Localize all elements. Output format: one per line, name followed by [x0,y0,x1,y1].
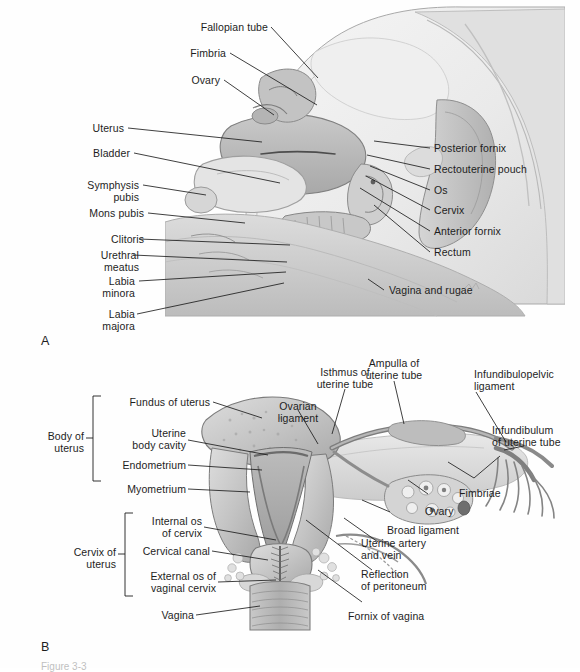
label-symphysis-pubis: Symphysis pubis [18,179,139,203]
label-endometrium: Endometrium [104,459,186,471]
bracket-label-body-of-uterus: Body of uterus [0,430,84,454]
label-external-os-of-vaginal-cervix: External os of vaginal cervix [130,570,216,594]
label-fornix-of-vagina: Fornix of vagina [348,610,424,622]
label-cervix-a: Cervix [434,204,464,216]
label-labia-minora: Labia minora [50,275,135,299]
label-infundibulopelvic-ligament: Infundibulopelvic ligament [474,368,578,392]
label-infundibulum-of-uterine-tube: Infundibulum of uterine tube [492,424,580,448]
label-cervical-canal: Cervical canal [136,545,210,557]
label-fundus-of-uterus: Fundus of uterus [104,396,210,408]
label-broad-ligament: Broad ligament [387,524,459,536]
label-anterior-fornix: Anterior fornix [434,225,501,237]
label-rectum: Rectum [434,246,471,258]
label-ovarian-ligament: Ovarian ligament [258,400,338,424]
label-labia-majora: Labia majora [50,308,135,332]
label-rectouterine-pouch: Rectouterine pouch [434,163,527,175]
label-os: Os [434,184,448,196]
label-bladder: Bladder [30,147,130,159]
label-internal-os-of-cervix: Internal os of cervix [136,515,202,539]
label-uterus-a: Uterus [30,122,124,134]
bracket-label-cervix-of-uterus: Cervix of uterus [30,546,116,570]
panel-b-letter: B [41,640,49,654]
panel-b-illustration [196,386,570,632]
label-reflection-of-peritoneum: Reflection of peritoneum [361,568,461,592]
panel-a-letter: A [41,334,49,348]
figure-caption: Figure 3-3 [41,661,87,672]
label-uterine-body-cavity: Uterine body cavity [104,427,186,451]
label-fallopian-tube: Fallopian tube [110,21,268,33]
label-ovary-b: Ovary [425,505,454,517]
label-vagina-b: Vagina [130,609,194,621]
label-posterior-fornix: Posterior fornix [434,142,506,154]
label-myometrium: Myometrium [104,483,186,495]
label-urethral-meatus: Urethral meatus [30,249,139,273]
label-fimbria: Fimbria [110,47,226,59]
label-mons-pubis: Mons pubis [30,207,144,219]
label-vagina-and-rugae: Vagina and rugae [389,284,473,296]
label-uterine-artery-and-vein: Uterine artery and vein [361,537,461,561]
label-ampulla-of-uterine-tube: Ampulla of uterine tube [350,357,438,381]
label-fimbriae: Fimbriae [459,487,501,499]
label-ovary-a: Ovary [110,74,220,86]
label-clitoris: Clitoris [40,233,144,245]
